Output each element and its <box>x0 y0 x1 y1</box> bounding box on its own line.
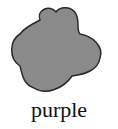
blob-shape <box>0 0 118 100</box>
color-label: purple <box>0 97 118 123</box>
blob-icon <box>12 8 101 91</box>
